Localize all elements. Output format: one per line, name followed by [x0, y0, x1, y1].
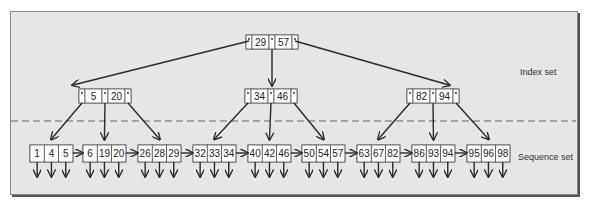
- index-to-leaf-arrow: [104, 103, 105, 139]
- leaf-node-3-key: 26: [140, 148, 152, 159]
- leaf-node-7-key: 67: [373, 148, 385, 159]
- leaf-node-4-key: 34: [223, 148, 235, 159]
- index-to-leaf-arrow: [378, 103, 410, 139]
- leaf-node-8-key: 94: [442, 148, 454, 159]
- leaf-node-6-key: 50: [304, 148, 316, 159]
- leaf-node-6-key: 54: [318, 148, 330, 159]
- sequence-set-label: Sequence set: [518, 152, 574, 162]
- index-node-1-pointer-dot: [81, 92, 83, 94]
- leaf-node-3-key: 29: [168, 148, 180, 159]
- leaf-node-2-key: 20: [113, 148, 125, 159]
- leaf-node-4-key: 33: [209, 148, 221, 159]
- root-node-pointer-cell: [269, 35, 275, 49]
- root-node-pointer-dot: [294, 38, 296, 40]
- leaf-node-1-key: 1: [34, 148, 40, 159]
- index-set-label: Index set: [520, 67, 557, 77]
- leaf-node-8-key: 86: [414, 148, 426, 159]
- leaf-node-3-key: 28: [154, 148, 166, 159]
- index-node-3-key: 82: [416, 91, 428, 102]
- leaf-node-2-key: 19: [99, 148, 111, 159]
- leaf-node-2-key: 6: [87, 148, 93, 159]
- index-node-2-pointer-dot: [247, 92, 249, 94]
- root-pointer-arrow: [73, 41, 249, 85]
- index-to-leaf-arrow: [269, 103, 271, 139]
- index-node-1-pointer-dot: [104, 92, 106, 94]
- index-node-3-pointer-cell: [430, 89, 436, 103]
- index-node-1-key: 20: [111, 91, 123, 102]
- index-node-2-key: 34: [254, 91, 266, 102]
- index-node-3-pointer-dot: [455, 92, 457, 94]
- index-to-leaf-arrow: [456, 103, 488, 139]
- index-node-3-pointer-cell: [453, 89, 459, 103]
- leaf-node-7-key: 63: [359, 148, 371, 159]
- index-node-2-pointer-cell: [291, 89, 297, 103]
- index-node-2-pointer-cell: [268, 89, 274, 103]
- root-node-key: 29: [255, 37, 267, 48]
- index-node-2-key: 46: [277, 91, 289, 102]
- root-node-key: 57: [278, 37, 290, 48]
- index-node-2-pointer-dot: [293, 92, 295, 94]
- index-node-3-key: 94: [439, 91, 451, 102]
- leaf-node-5-key: 42: [264, 148, 276, 159]
- leaf-node-9-key: 96: [483, 148, 495, 159]
- leaf-node-7-key: 82: [387, 148, 399, 159]
- leaf-node-8-key: 93: [428, 148, 440, 159]
- index-node-1-pointer-cell: [125, 89, 131, 103]
- index-node-3-pointer-dot: [432, 92, 434, 94]
- index-node-2-pointer-cell: [245, 89, 251, 103]
- leaf-node-9-key: 95: [469, 148, 481, 159]
- b-tree-diagram: Index set Sequence set 29575203446829414…: [0, 0, 590, 206]
- leaf-node-1-key: 5: [63, 148, 69, 159]
- leaf-node-1-key: 4: [49, 148, 55, 159]
- leaf-node-9-key: 98: [497, 148, 509, 159]
- leaf-node-4-key: 32: [195, 148, 207, 159]
- leaf-node-6-key: 57: [332, 148, 344, 159]
- index-node-1-key: 5: [91, 91, 97, 102]
- root-node-pointer-dot: [248, 38, 250, 40]
- index-node-1-pointer-dot: [127, 92, 129, 94]
- leaf-node-5-key: 46: [278, 148, 290, 159]
- index-node-1-pointer-cell: [102, 89, 108, 103]
- leaf-node-5-key: 40: [250, 148, 262, 159]
- root-node-pointer-dot: [271, 38, 273, 40]
- root-pointer-arrow: [295, 41, 449, 85]
- index-node-3-pointer-cell: [407, 89, 413, 103]
- index-node-3-pointer-dot: [409, 92, 411, 94]
- index-node-1-pointer-cell: [79, 89, 85, 103]
- index-node-2-pointer-dot: [270, 92, 272, 94]
